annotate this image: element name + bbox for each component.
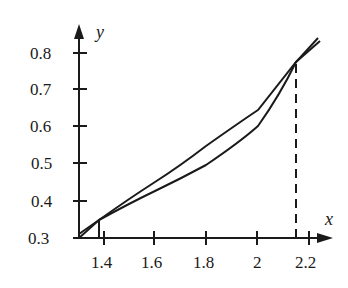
y-tick-label: 0.4: [31, 192, 53, 211]
y-axis-arrow-icon: [74, 24, 84, 39]
x-tick-label: 1.4: [91, 253, 113, 272]
chart: y x 0.8 0.7 0.6 0.5 0.4 0.3 1.4 1.6 1.8 …: [0, 0, 348, 288]
y-tick-label: 0.8: [30, 44, 51, 63]
curve-a: [79, 41, 320, 234]
x-tick-label: 1.6: [141, 253, 162, 272]
y-axis-label: y: [94, 22, 104, 42]
y-tick-label: 0.5: [31, 154, 52, 173]
y-tick-label: 0.6: [30, 117, 51, 136]
x-tick-label: 1.8: [193, 253, 214, 272]
x-axis-label: x: [324, 209, 333, 229]
y-tick-label: 0.3: [28, 229, 49, 248]
x-tick-label: 2.2: [295, 253, 316, 272]
x-axis-arrow-icon: [317, 233, 333, 243]
y-tick-label: 0.7: [30, 80, 52, 99]
x-tick-label: 2: [253, 253, 262, 272]
